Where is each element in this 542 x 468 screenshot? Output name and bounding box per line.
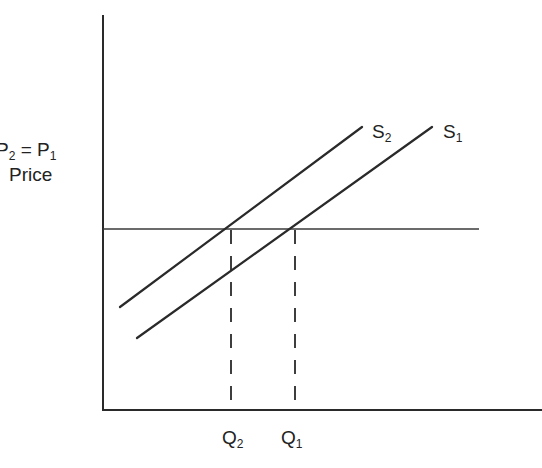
supply-shift-diagram: P2 = P1 Price S2 S1 Q2 Q1	[0, 0, 542, 468]
s2-base: S	[372, 121, 385, 142]
s2-label: S2	[372, 122, 391, 141]
p1-subscript: 1	[50, 149, 57, 163]
q1-subscript: 1	[296, 437, 303, 451]
q1-base: Q	[281, 427, 296, 448]
q1-label: Q1	[281, 428, 302, 447]
s1-subscript: 1	[456, 131, 463, 145]
s2-subscript: 2	[385, 131, 392, 145]
supply-curve-s1	[137, 127, 432, 338]
price-equality-label: P2 = P1	[0, 140, 56, 159]
p2-label: P	[0, 139, 9, 160]
q2-subscript: 2	[237, 437, 244, 451]
price-axis-label: Price	[9, 165, 52, 184]
equals-sign: =	[15, 139, 37, 160]
q2-label: Q2	[222, 428, 243, 447]
q2-base: Q	[222, 427, 237, 448]
supply-curve-s2	[120, 127, 362, 307]
diagram-canvas	[0, 0, 542, 468]
s1-label: S1	[443, 122, 462, 141]
s1-base: S	[443, 121, 456, 142]
p1-label: P	[37, 139, 50, 160]
